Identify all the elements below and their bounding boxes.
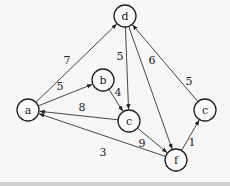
edge-weight-label: 1 — [189, 136, 196, 149]
edge-weight-label: 3 — [100, 146, 107, 159]
edge-weight-label: 5 — [57, 80, 64, 93]
edge-labels-layer: 7545689315 — [57, 50, 196, 159]
edge-weight-label: 4 — [115, 86, 122, 99]
edge-weight-label: 5 — [186, 75, 193, 88]
node-label: d — [121, 10, 128, 23]
edge-weight-label: 8 — [79, 101, 86, 114]
node-label: c — [202, 104, 208, 117]
node-label: b — [99, 74, 106, 87]
weighted-directed-graph: 7545689315 abdccf — [0, 0, 230, 186]
node-b: b — [92, 69, 114, 91]
edge-d-to-c1 — [125, 27, 128, 110]
node-label: a — [25, 104, 32, 117]
node-a: a — [17, 99, 39, 121]
edge-weight-label: 6 — [149, 54, 156, 67]
node-c2: c — [194, 99, 216, 121]
edge-weight-label: 5 — [117, 50, 124, 63]
node-d: d — [114, 5, 136, 27]
edge-weight-label: 7 — [64, 54, 71, 67]
edge-weight-label: 9 — [139, 137, 146, 150]
node-c1: c — [118, 110, 140, 132]
node-label: c — [126, 115, 132, 128]
edge-c2-to-d — [132, 25, 197, 102]
bottom-edge-strip — [0, 182, 230, 186]
node-f: f — [165, 149, 187, 171]
